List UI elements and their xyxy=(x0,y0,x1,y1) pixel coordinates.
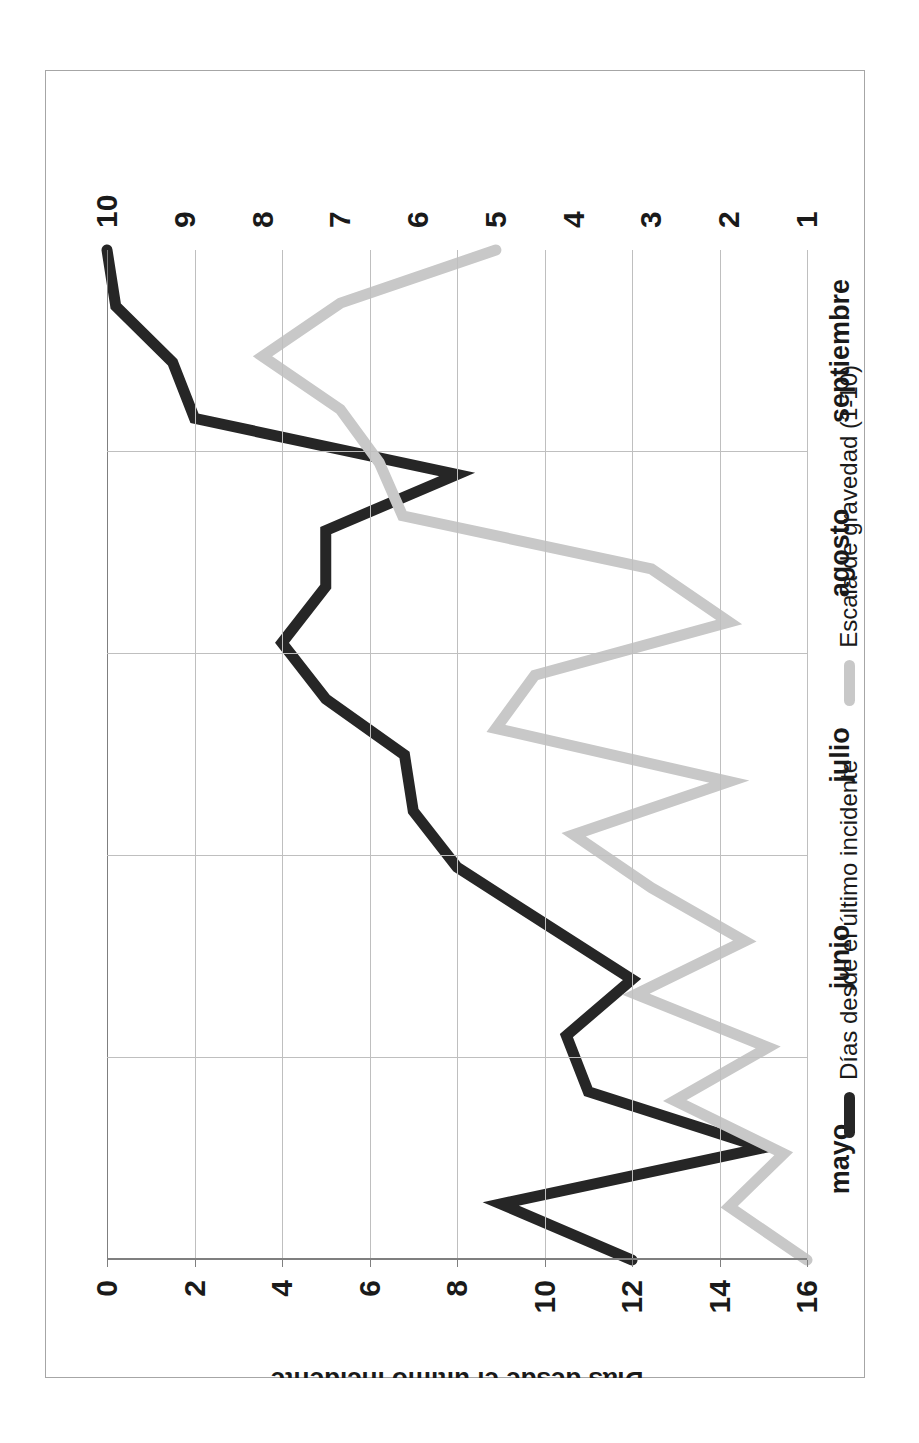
secondary-y-axis-tick-label: 10 xyxy=(90,158,124,228)
secondary-y-axis-tick-label: 2 xyxy=(712,158,746,228)
legend-swatch-dias xyxy=(844,1092,855,1138)
y-axis-tick xyxy=(457,1260,458,1267)
gridline xyxy=(195,250,196,1260)
y-axis-tick-label: 2 xyxy=(178,1280,212,1350)
gridline xyxy=(807,250,808,1260)
secondary-y-axis-tick-label: 5 xyxy=(479,158,513,228)
secondary-y-axis-tick-label: 1 xyxy=(790,158,824,228)
legend-swatch-escala xyxy=(844,660,855,706)
y-axis-tick-label: 8 xyxy=(440,1280,474,1350)
legend-item-dias: Días desde el último incidente xyxy=(835,760,863,1138)
legend-label-dias: Días desde el último incidente xyxy=(835,760,863,1080)
chart-page: Días desde el último incidente Escala de… xyxy=(0,0,919,1443)
gridline xyxy=(282,250,283,1260)
series-line-escala xyxy=(263,250,807,1260)
secondary-y-axis-tick-label: 6 xyxy=(401,158,435,228)
y-axis-line xyxy=(107,1259,807,1261)
category-gridline xyxy=(107,855,807,856)
primary-y-axis-title: Días desde el último incidente xyxy=(271,1365,644,1379)
gridline xyxy=(370,250,371,1260)
y-axis-tick-label: 12 xyxy=(615,1280,649,1350)
legend-item-escala: Escala de gravedad (1-10) xyxy=(835,365,863,706)
y-axis-tick xyxy=(632,1260,633,1267)
y-axis-tick-label: 6 xyxy=(353,1280,387,1350)
line-chart: Días desde el último incidente Escala de… xyxy=(45,70,865,1378)
category-gridline xyxy=(107,1057,807,1058)
gridline xyxy=(107,250,108,1260)
rotated-chart-viewport: Días desde el último incidente Escala de… xyxy=(45,70,865,1378)
secondary-y-axis-tick-label: 3 xyxy=(634,158,668,228)
secondary-y-axis-tick-label: 8 xyxy=(246,158,280,228)
secondary-y-axis-tick-label: 9 xyxy=(168,158,202,228)
gridline xyxy=(545,250,546,1260)
y-axis-tick-label: 0 xyxy=(90,1280,124,1350)
y-axis-tick xyxy=(807,1260,808,1267)
y-axis-tick xyxy=(720,1260,721,1267)
legend-label-escala: Escala de gravedad (1-10) xyxy=(835,365,863,648)
gridline xyxy=(632,250,633,1260)
secondary-y-axis-tick-label: 7 xyxy=(323,158,357,228)
series-line-dias xyxy=(107,250,763,1260)
y-axis-tick xyxy=(107,1260,108,1267)
y-axis-tick-label: 14 xyxy=(703,1280,737,1350)
y-axis-tick xyxy=(282,1260,283,1267)
chart-legend: Días desde el último incidente Escala de… xyxy=(835,365,863,1138)
category-gridline xyxy=(107,451,807,452)
y-axis-tick xyxy=(195,1260,196,1267)
category-gridline xyxy=(107,653,807,654)
y-axis-tick-label: 16 xyxy=(790,1280,824,1350)
y-axis-tick-label: 10 xyxy=(528,1280,562,1350)
y-axis-tick-label: 4 xyxy=(265,1280,299,1350)
y-axis-tick xyxy=(545,1260,546,1267)
secondary-y-axis-tick-label: 4 xyxy=(557,158,591,228)
gridline xyxy=(457,250,458,1260)
gridline xyxy=(720,250,721,1260)
plot-area: 024681012141610987654321mayojuniojulioag… xyxy=(107,250,807,1260)
y-axis-tick xyxy=(370,1260,371,1267)
